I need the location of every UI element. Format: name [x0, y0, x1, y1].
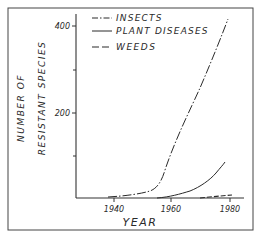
x-ticks: [114, 198, 230, 202]
legend-label-insects: INSECTS: [116, 13, 163, 23]
y-axis-label-line1: NUMBER OF: [16, 74, 26, 142]
y-ticks: [72, 26, 76, 156]
legend: INSECTS PLANT DISEASES WEEDS: [92, 13, 209, 52]
xtick-label-1980: 1980: [220, 205, 240, 214]
legend-label-plant-diseases: PLANT DISEASES: [116, 26, 209, 36]
series-plant-diseases: [157, 162, 225, 198]
chart-figure: 400 200 1940 1960 1980 YEAR NUMBER OF RE…: [0, 0, 258, 235]
y-axis-label-line2: RESISTANT SPECIES: [37, 41, 47, 156]
legend-label-weeds: WEEDS: [116, 42, 156, 52]
xtick-label-1960: 1960: [161, 205, 181, 214]
ytick-label-200: 200: [55, 109, 70, 118]
xtick-label-1940: 1940: [104, 205, 124, 214]
ytick-label-400: 400: [55, 22, 70, 31]
x-axis-label: YEAR: [123, 216, 158, 229]
